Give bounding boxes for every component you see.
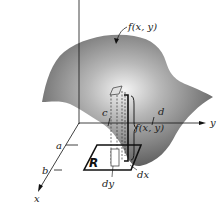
volume-diagram: f(x, y) f(x, y) c d a b R dy dx y x bbox=[0, 0, 222, 206]
x-lower-label: a bbox=[56, 140, 62, 151]
y-axis-arrow-icon bbox=[199, 121, 206, 125]
dy-label: dy bbox=[102, 178, 114, 189]
x-axis-label: x bbox=[34, 193, 40, 204]
x-axis-arrow-icon bbox=[38, 184, 43, 192]
y-upper-label: d bbox=[158, 106, 164, 117]
y-axis-label: y bbox=[209, 117, 216, 128]
height-label: f(x, y) bbox=[134, 122, 164, 133]
y-lower-label: c bbox=[102, 107, 108, 118]
dy-leader bbox=[112, 166, 113, 177]
x-axis bbox=[40, 123, 79, 188]
region-label: R bbox=[89, 156, 98, 170]
surface-label: f(x, y) bbox=[127, 21, 157, 32]
dx-label: dx bbox=[137, 169, 149, 180]
base-element-dy bbox=[111, 149, 119, 166]
x-upper-label: b bbox=[42, 165, 48, 176]
